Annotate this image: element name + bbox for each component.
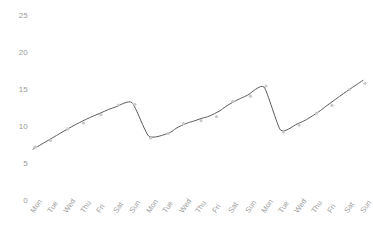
data-point-marker [199, 119, 202, 122]
data-point-marker [49, 139, 52, 142]
y-axis-tick-label: 5 [10, 160, 28, 168]
data-point-marker [215, 115, 218, 118]
data-point-marker [66, 127, 69, 130]
data-point-marker [117, 103, 120, 106]
series-line-value [33, 80, 363, 149]
y-axis-tick-label: 15 [10, 86, 28, 94]
y-axis-tick-label: 0 [10, 197, 28, 205]
data-point-marker [264, 84, 267, 87]
data-point-marker [231, 100, 234, 103]
data-point-marker [249, 95, 252, 98]
data-point-marker [33, 146, 36, 149]
series-line-group [33, 80, 363, 149]
data-point-marker [99, 113, 102, 116]
data-point-marker [282, 130, 285, 133]
data-point-marker [315, 112, 318, 115]
series-markers-group [33, 82, 366, 149]
data-point-marker [149, 136, 152, 139]
data-point-marker [330, 104, 333, 107]
data-point-marker [297, 123, 300, 126]
y-axis-tick-label: 10 [10, 123, 28, 131]
data-point-marker [133, 103, 136, 106]
data-point-marker [363, 82, 366, 85]
data-point-marker [82, 121, 85, 124]
data-point-marker [166, 132, 169, 135]
data-point-marker [182, 122, 185, 125]
y-axis-tick-label: 20 [10, 49, 28, 57]
data-point-marker [348, 88, 351, 91]
y-axis-tick-label: 25 [10, 12, 28, 20]
